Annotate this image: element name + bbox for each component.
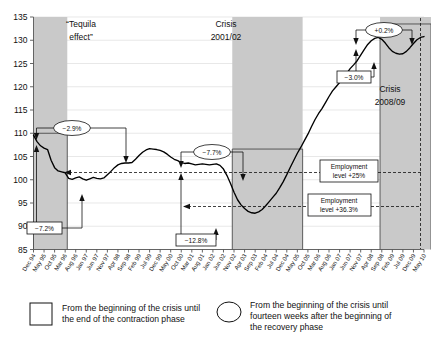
- band-label-crisis2008-line2: 2008/09: [375, 97, 406, 107]
- y-tick-label: 115: [14, 105, 28, 115]
- callout-text-crisis2008: +0.2%: [375, 27, 394, 34]
- callout-box-text-tequila: −7.2%: [35, 225, 54, 232]
- band-label-crisis2001-line2: 2001/02: [211, 32, 242, 42]
- legend-item-square-line1: From the beginning of the crisis until: [62, 303, 200, 313]
- callout-box-text-crisis2001: −12.8%: [185, 237, 208, 244]
- square-marker: [30, 303, 52, 325]
- y-tick-label: 105: [13, 152, 27, 162]
- band-label-crisis2008-line1: Crisis: [379, 84, 400, 94]
- note-level-36-line2: level +36.3%: [320, 206, 358, 213]
- callout-text-crisis2001: −7.7%: [203, 149, 222, 156]
- band-label-tequila-line2: effect”: [69, 32, 93, 42]
- y-tick-label: 85: [18, 245, 28, 255]
- legend-item-circle-line1: From the beginning of the crisis until: [250, 300, 388, 310]
- y-tick-label: 125: [13, 59, 27, 69]
- legend-item-square-line2: the end of the contraction phase: [62, 314, 185, 324]
- y-tick-label: 135: [13, 12, 27, 22]
- callout-box-text-crisis2008: −3.0%: [345, 74, 364, 81]
- y-tick-label: 120: [13, 82, 27, 92]
- y-tick-label: 90: [18, 221, 28, 231]
- note-level-25-line2: level +25%: [333, 172, 366, 179]
- y-tick-label: 100: [13, 175, 27, 185]
- band-label-tequila-line1: “Tequila: [66, 19, 96, 29]
- band-crisis2001: [232, 17, 302, 250]
- legend-item-circle-line2: fourteen weeks after the beginning of: [250, 311, 392, 321]
- y-tick-label: 130: [13, 35, 27, 45]
- circle-marker: [217, 302, 241, 322]
- legend-item-circle-line3: the recovery phase: [250, 322, 323, 332]
- callout-text-tequila: −2.9%: [63, 125, 82, 132]
- y-tick-label: 95: [18, 198, 28, 208]
- note-level-25-line1: Employment: [331, 163, 368, 171]
- employment-index-line-chart: 859095100105110115120125130135 Dec 94May…: [0, 0, 431, 346]
- chart-figure: 859095100105110115120125130135 Dec 94May…: [0, 0, 431, 346]
- note-level-36-line1: Employment: [321, 197, 358, 205]
- band-label-crisis2001-line1: Crisis: [215, 19, 236, 29]
- y-tick-label: 110: [14, 128, 28, 138]
